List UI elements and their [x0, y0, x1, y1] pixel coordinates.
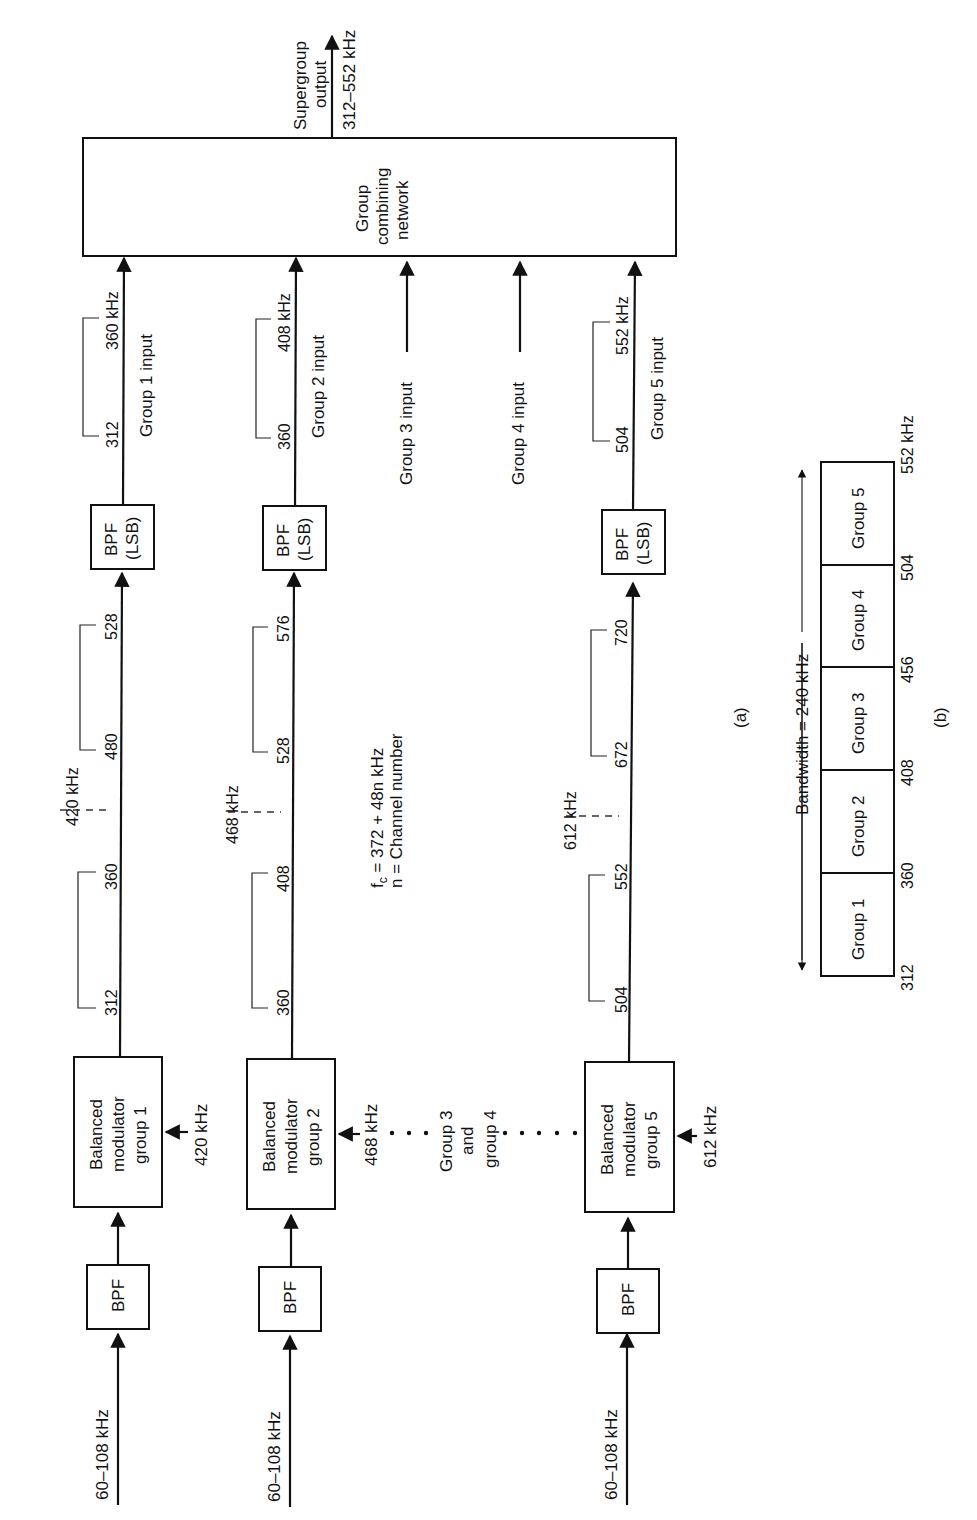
- supergroup-diagram: 60–108 kHz BPF Balanced modulator group …: [0, 0, 977, 1520]
- svg-text:Balanced: Balanced: [260, 1101, 279, 1172]
- svg-text:312: 312: [103, 989, 120, 1016]
- group-5-carrier-marker: 612 kHz: [562, 791, 579, 850]
- svg-text:528: 528: [275, 737, 292, 764]
- spectrum-cell-group-4: Group 4: [849, 590, 868, 651]
- spectrum-edge-552: 552 kHz: [899, 415, 916, 474]
- svg-text:modulator: modulator: [109, 1096, 128, 1172]
- group-1-input-band: 60–108 kHz: [93, 1409, 112, 1500]
- supergroup-spectrum: Bandwidth = 240 kHz Group 1 Group 2 Grou…: [793, 415, 916, 991]
- svg-text:552 kHz: 552 kHz: [614, 296, 631, 355]
- svg-text:504: 504: [613, 986, 630, 1013]
- group-2-input-label: Group 2 input: [309, 335, 328, 438]
- supergroup-output: Supergroup output 312–552 kHz: [291, 30, 359, 138]
- omitted-groups-line3: group 4: [481, 1110, 500, 1168]
- group-combining-network: Group combining network: [83, 138, 676, 256]
- svg-text:528: 528: [103, 613, 120, 640]
- svg-text:modulator: modulator: [282, 1098, 301, 1174]
- spectrum-edge-408: 408: [899, 759, 916, 786]
- group-3-input-label: Group 3 input: [397, 382, 416, 485]
- svg-text:408: 408: [275, 865, 292, 892]
- svg-text:Balanced: Balanced: [87, 1099, 106, 1170]
- svg-text:360: 360: [276, 423, 293, 450]
- group-1-chain: 60–108 kHz BPF Balanced modulator group …: [60, 258, 211, 1505]
- svg-text:576: 576: [275, 615, 292, 642]
- svg-text:BPF: BPF: [109, 1279, 128, 1312]
- output-label-line2: output: [311, 60, 330, 108]
- group-1-carrier-marker: 420 kHz: [64, 767, 81, 826]
- group-5-input-band: 60–108 kHz: [602, 1409, 621, 1500]
- spectrum-edge-360: 360: [899, 862, 916, 889]
- svg-text:Group: Group: [353, 185, 372, 232]
- svg-text:group 5: group 5: [642, 1111, 661, 1169]
- group-1-carrier: 420 kHz: [192, 1104, 211, 1166]
- carrier-formula: fc = 372 + 48n kHz n = Channel number: [368, 733, 406, 888]
- groups-3-4-placeholder: Group 3 and group 4 Group 3 input Group …: [390, 262, 577, 1172]
- svg-text:552: 552: [613, 863, 630, 890]
- spectrum-edge-456: 456: [899, 656, 916, 683]
- formula-line2: n = Channel number: [387, 733, 406, 888]
- svg-text:modulator: modulator: [620, 1101, 639, 1177]
- output-band: 312–552 kHz: [340, 30, 359, 130]
- svg-text:720: 720: [613, 619, 630, 646]
- group-2-input-band: 60–108 kHz: [265, 1411, 284, 1502]
- svg-text:BPF: BPF: [274, 524, 293, 557]
- svg-text:672: 672: [613, 741, 630, 768]
- svg-text:group 1: group 1: [131, 1106, 150, 1164]
- spectrum-edge-504: 504: [899, 554, 916, 581]
- group-5-input-label: Group 5 input: [648, 337, 667, 440]
- svg-text:group 2: group 2: [304, 1108, 323, 1166]
- svg-text:BPF: BPF: [102, 523, 121, 556]
- spectrum-cell-group-2: Group 2: [849, 796, 868, 857]
- svg-text:BPF: BPF: [281, 1281, 300, 1314]
- spectrum-cell-group-5: Group 5: [849, 488, 868, 549]
- group-5-carrier: 612 kHz: [701, 1106, 720, 1168]
- spectrum-edge-312: 312: [899, 964, 916, 991]
- svg-text:360 kHz: 360 kHz: [104, 291, 121, 350]
- figure-part-b-label: (b): [931, 707, 950, 728]
- group-1-input-label: Group 1 input: [137, 334, 156, 437]
- svg-text:408 kHz: 408 kHz: [276, 293, 293, 352]
- svg-text:360: 360: [275, 989, 292, 1016]
- svg-text:480: 480: [103, 733, 120, 760]
- group-2-carrier: 468 kHz: [362, 1104, 381, 1166]
- output-label-line1: Supergroup: [291, 41, 310, 130]
- svg-text:BPF: BPF: [619, 1283, 638, 1316]
- spectrum-cell-group-1: Group 1: [849, 899, 868, 960]
- figure-part-a-label: (a): [731, 707, 750, 728]
- svg-text:360: 360: [103, 863, 120, 890]
- bandwidth-label: Bandwidth = 240 kHz: [793, 654, 812, 815]
- svg-text:312: 312: [104, 421, 121, 448]
- svg-text:(LSB): (LSB): [634, 522, 653, 565]
- omitted-groups-line2: and: [458, 1127, 477, 1155]
- group-4-input-label: Group 4 input: [509, 382, 528, 485]
- svg-text:(LSB): (LSB): [295, 518, 314, 561]
- svg-text:network: network: [393, 180, 412, 240]
- svg-text:504: 504: [614, 426, 631, 453]
- group-2-chain: 60–108 kHz BPF Balanced modulator group …: [224, 258, 381, 1507]
- svg-text:combining: combining: [373, 168, 392, 246]
- group-5-chain: 60–108 kHz BPF Balanced modulator group …: [562, 262, 720, 1505]
- svg-text:Balanced: Balanced: [598, 1104, 617, 1175]
- svg-text:(LSB): (LSB): [123, 517, 142, 560]
- svg-text:BPF: BPF: [613, 528, 632, 561]
- group-2-carrier-marker: 468 kHz: [224, 785, 241, 844]
- spectrum-cell-group-3: Group 3: [849, 693, 868, 754]
- omitted-groups-line1: Group 3: [437, 1111, 456, 1172]
